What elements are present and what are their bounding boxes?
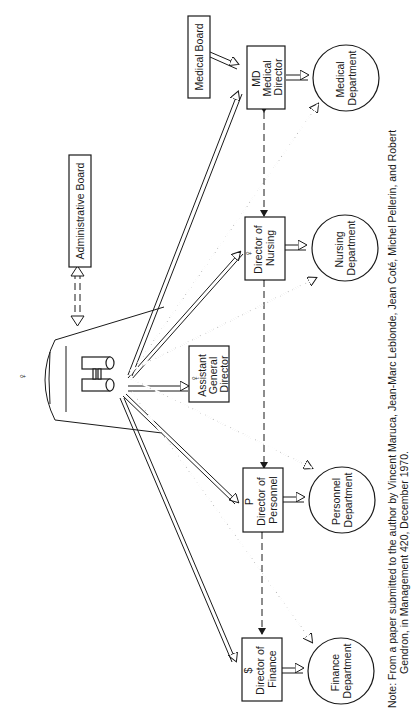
- svg-text:Personnel Department: Personnel Department: [330, 472, 354, 527]
- personnel-director-box: P Director of Personnel: [243, 468, 304, 532]
- note-line-1: Note: From a paper submitted to the auth…: [386, 130, 398, 708]
- svg-text:Director of Nursing: Director of Nursing: [252, 222, 276, 273]
- finance-department-circle: Finance Department: [308, 638, 374, 704]
- administrative-board-label: Administrative Board: [74, 162, 86, 259]
- svg-text:Assistant General: Assistant General Director: [196, 351, 230, 397]
- note-line-2: Gendron, in Management 420, December 197…: [398, 451, 410, 674]
- binoculars-icon: [82, 357, 114, 391]
- center-symbol: ♀: [16, 372, 28, 380]
- personnel-department-circle: Personnel Department: [309, 467, 375, 533]
- nursing-department-circle: Nursing Department: [312, 215, 378, 281]
- finance-director-box: $ Director of Finance: [242, 638, 303, 701]
- assistant-director-box: Assistant General Director ♀: [188, 346, 230, 402]
- nursing-symbol: ♀: [242, 249, 254, 257]
- admin-board-link: [71, 266, 84, 326]
- medical-board-box: Medical Board: [188, 16, 238, 98]
- medical-board-label: Medical Board: [193, 23, 205, 90]
- assistant-symbol: ♀: [188, 374, 200, 382]
- medical-director-box: MD Medical Director: [247, 46, 308, 109]
- medical-department-circle: Medical Department: [313, 45, 379, 111]
- coordination-lines: [262, 112, 264, 634]
- svg-text:Nursing Department: Nursing Department: [333, 220, 357, 275]
- svg-text:Finance Department: Finance Department: [329, 643, 353, 698]
- source-note: Note: From a paper submitted to the auth…: [386, 130, 410, 708]
- svg-text:Medical Department: Medical Department: [334, 50, 358, 105]
- administrative-board-box: Administrative Board: [69, 155, 91, 267]
- organization-diagram: ♀ Administrative Board Medical Board MD …: [0, 0, 411, 717]
- nursing-director-box: Director of Nursing ♀: [242, 217, 306, 280]
